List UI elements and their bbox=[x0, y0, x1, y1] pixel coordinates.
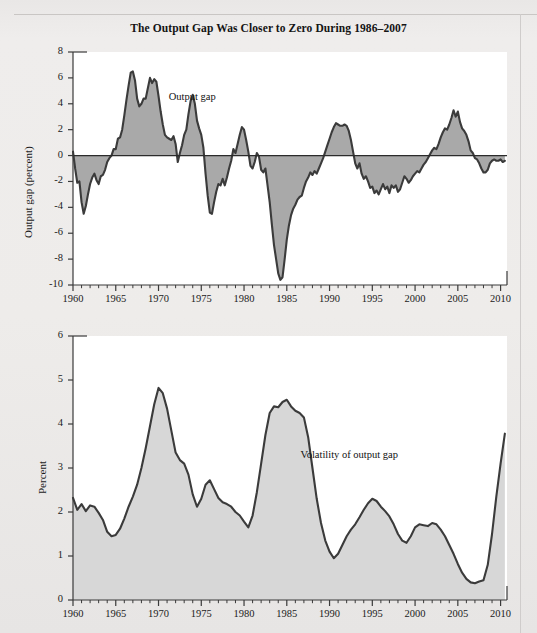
y-tick-label: 6 bbox=[29, 329, 63, 340]
y-tick-label: 8 bbox=[29, 45, 63, 56]
x-tick-label: 2010 bbox=[476, 608, 526, 619]
y-tick-label: -8 bbox=[29, 252, 63, 263]
y-tick-label: 4 bbox=[29, 417, 63, 428]
y-tick-label: 2 bbox=[29, 123, 63, 134]
y-tick-label: 0 bbox=[29, 593, 63, 604]
y-tick-label: 2 bbox=[29, 505, 63, 516]
y-tick-label: 5 bbox=[29, 373, 63, 384]
figure-title: The Output Gap Was Closer to Zero During… bbox=[0, 22, 537, 34]
y-tick-label: 4 bbox=[29, 97, 63, 108]
y-tick-label: 1 bbox=[29, 549, 63, 560]
x-tick-label: 2010 bbox=[476, 293, 526, 304]
figure-page: The Output Gap Was Closer to Zero During… bbox=[0, 0, 537, 633]
volatility-plot bbox=[0, 325, 537, 625]
output-gap-plot bbox=[0, 40, 537, 310]
volatility-chart bbox=[0, 325, 537, 625]
y-tick-label: 3 bbox=[29, 461, 63, 472]
series-annotation: Volatility of output gap bbox=[300, 449, 398, 460]
y-axis-label-top: Output gap (percent) bbox=[22, 146, 34, 238]
page-top-rule bbox=[14, 14, 537, 15]
y-tick-label: -10 bbox=[29, 278, 63, 289]
output-gap-chart bbox=[0, 40, 537, 310]
y-tick-label: 6 bbox=[29, 71, 63, 82]
y-tick-label: -4 bbox=[29, 200, 63, 211]
series-annotation: Output gap bbox=[169, 91, 216, 102]
y-tick-label: -6 bbox=[29, 226, 63, 237]
y-tick-label: 0 bbox=[29, 149, 63, 160]
y-tick-label: -2 bbox=[29, 174, 63, 185]
